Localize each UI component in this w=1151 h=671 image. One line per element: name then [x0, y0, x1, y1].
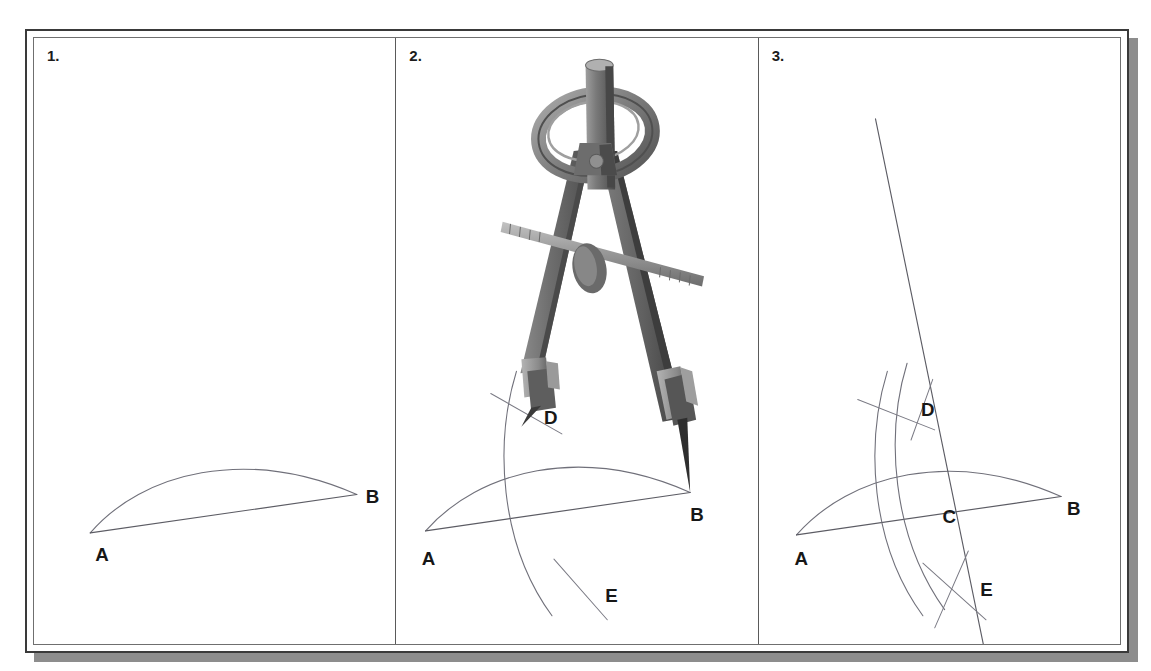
cross-mark-e-right: [934, 551, 968, 628]
label-point-a: A: [422, 548, 436, 569]
compass-adjusting-screw: [501, 222, 704, 297]
label-point-c: C: [942, 506, 956, 527]
arc-ab: [796, 471, 1061, 535]
figure-frame: 1. A B 2.: [25, 29, 1129, 653]
figure-page: 1. A B 2.: [0, 0, 1151, 671]
label-point-b: B: [1067, 498, 1081, 519]
label-point-d: D: [921, 399, 935, 420]
label-point-e: E: [606, 584, 619, 605]
compass-right-leg: [600, 151, 699, 492]
arc-ab: [426, 467, 691, 531]
compass-tool: [501, 59, 704, 492]
panel-one: 1. A B: [34, 38, 395, 644]
label-point-a: A: [95, 544, 109, 565]
label-point-d: D: [544, 407, 558, 428]
panel-three-drawing: A B C D E: [759, 38, 1120, 644]
panel-two: 2.: [395, 38, 757, 644]
label-point-b: B: [366, 485, 380, 506]
chord-ab: [90, 495, 357, 533]
figure-inner-border: 1. A B 2.: [33, 37, 1121, 645]
panel-two-drawing: A B D E: [396, 38, 757, 644]
panel-row: 1. A B 2.: [34, 38, 1120, 644]
compass-pivot: [574, 143, 617, 175]
cross-mark-e: [554, 559, 607, 620]
label-point-a: A: [794, 548, 808, 569]
compass-left-leg: [521, 149, 592, 427]
label-point-e: E: [980, 578, 993, 599]
panel-one-drawing: A B: [34, 38, 395, 644]
bisector-line-de: [875, 119, 984, 644]
panel-three: 3.: [758, 38, 1120, 644]
arc-ab: [90, 469, 357, 533]
label-point-b: B: [691, 504, 705, 525]
